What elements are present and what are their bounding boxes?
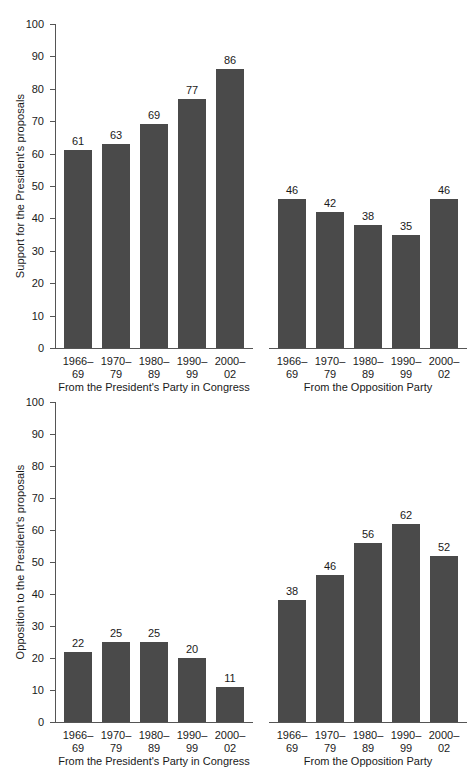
y-axis-tick — [50, 562, 55, 563]
x-axis-tick-label-line2: 02 — [208, 368, 252, 381]
y-axis-tick — [50, 121, 55, 122]
y-axis-tick — [50, 434, 55, 435]
bar — [64, 150, 92, 348]
x-axis-baseline — [55, 722, 253, 723]
bar — [178, 99, 206, 348]
y-axis-tick-label: 90 — [18, 428, 44, 440]
opposition-bar-chart: 0102030405060708090100Opposition to the … — [0, 392, 460, 778]
x-axis-tick-label-line1: 2000– — [422, 729, 466, 742]
bar — [430, 556, 458, 722]
y-axis-tick — [50, 251, 55, 252]
bar — [392, 524, 420, 722]
y-axis-tick — [50, 498, 55, 499]
y-axis-line — [55, 402, 56, 723]
x-axis-tick-label-line2: 02 — [208, 742, 252, 755]
y-axis-tick-label: 90 — [18, 50, 44, 62]
bar-value-label: 61 — [58, 135, 98, 147]
y-axis-tick-label: 10 — [18, 310, 44, 322]
bar — [278, 199, 306, 348]
y-axis-tick — [50, 218, 55, 219]
bar — [102, 642, 130, 722]
bar-value-label: 46 — [424, 184, 464, 196]
bar-value-label: 69 — [134, 109, 174, 121]
bar-value-label: 35 — [386, 220, 426, 232]
y-axis-tick-label: 100 — [18, 396, 44, 408]
y-axis-tick — [50, 283, 55, 284]
y-axis-tick-label: 0 — [18, 716, 44, 728]
y-axis-tick — [50, 186, 55, 187]
bar — [354, 543, 382, 722]
bar — [64, 652, 92, 722]
y-axis-tick — [50, 24, 55, 25]
y-axis-tick-label: 20 — [18, 277, 44, 289]
x-axis-tick-label-line2: 02 — [422, 742, 466, 755]
y-axis-tick-label: 100 — [18, 18, 44, 30]
bar — [140, 642, 168, 722]
bar-value-label: 25 — [134, 627, 174, 639]
x-axis-tick-label: 2000–02 — [208, 355, 252, 381]
bar — [216, 687, 244, 722]
bar-value-label: 77 — [172, 84, 212, 96]
y-axis-tick-label: 0 — [18, 342, 44, 354]
bar — [392, 235, 420, 348]
bar — [316, 212, 344, 348]
bar-value-label: 86 — [210, 54, 250, 66]
bar — [316, 575, 344, 722]
bar-value-label: 22 — [58, 637, 98, 649]
bar — [140, 124, 168, 348]
y-axis-tick — [50, 594, 55, 595]
bar-value-label: 11 — [210, 672, 250, 684]
bar-value-label: 46 — [272, 184, 312, 196]
y-axis-tick — [50, 530, 55, 531]
support-bar-chart: 0102030405060708090100Support for the Pr… — [0, 0, 460, 392]
bar — [178, 658, 206, 722]
y-axis-title: Opposition to the President's proposals — [14, 465, 26, 660]
bar — [354, 225, 382, 348]
x-axis-baseline — [269, 348, 467, 349]
bar-value-label: 42 — [310, 197, 350, 209]
bar-value-label: 52 — [424, 541, 464, 553]
x-axis-tick-label: 2000–02 — [422, 729, 466, 755]
bar — [102, 144, 130, 348]
bar-value-label: 63 — [96, 129, 136, 141]
bar-value-label: 46 — [310, 560, 350, 572]
y-axis-tick — [50, 658, 55, 659]
y-axis-tick — [50, 466, 55, 467]
x-axis-tick-label: 2000–02 — [208, 729, 252, 755]
y-axis-tick — [50, 626, 55, 627]
x-axis-tick-label-line1: 2000– — [208, 729, 252, 742]
x-axis-tick-label-line2: 02 — [422, 368, 466, 381]
bar — [278, 600, 306, 722]
x-axis-tick-label-line1: 2000– — [422, 355, 466, 368]
bar-value-label: 38 — [272, 585, 312, 597]
bar-value-label: 56 — [348, 528, 388, 540]
bar-value-label: 38 — [348, 210, 388, 222]
y-axis-tick — [50, 316, 55, 317]
group-caption: From the Opposition Party — [248, 755, 471, 767]
y-axis-title: Support for the President's proposals — [14, 94, 26, 278]
y-axis-tick-label: 10 — [18, 684, 44, 696]
bar — [430, 199, 458, 348]
y-axis-tick — [50, 402, 55, 403]
group-caption: From the President's Party in Congress — [34, 755, 274, 767]
y-axis-line — [55, 24, 56, 349]
bar-value-label: 20 — [172, 643, 212, 655]
x-axis-tick-label-line1: 2000– — [208, 355, 252, 368]
bar — [216, 69, 244, 348]
y-axis-tick — [50, 56, 55, 57]
x-axis-tick-label: 2000–02 — [422, 355, 466, 381]
y-axis-tick — [50, 154, 55, 155]
y-axis-tick — [50, 89, 55, 90]
bar-value-label: 62 — [386, 509, 426, 521]
x-axis-baseline — [269, 722, 467, 723]
bar-value-label: 25 — [96, 627, 136, 639]
x-axis-baseline — [55, 348, 253, 349]
y-axis-tick — [50, 690, 55, 691]
